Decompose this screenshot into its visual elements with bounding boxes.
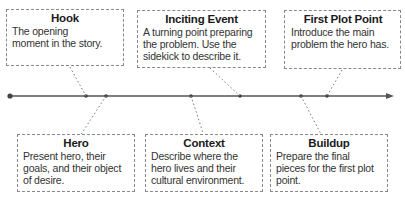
start-dot [7,93,12,98]
event-box-buildup: Buildup Prepare the final pieces for the… [270,134,388,192]
event-box-context: Context Describe where the hero lives an… [145,134,263,192]
event-box-hero: Hero Present hero, their goals, and thei… [17,134,135,192]
event-description: Present hero, their goals, and their obj… [23,150,128,186]
connector-first-plot-point [327,70,342,96]
connector-inciting-event [210,68,240,96]
event-title: Hero [23,137,129,150]
event-description: Introduce the main problem the hero has. [291,26,391,50]
event-title: Inciting Event [143,13,260,26]
arrow-head-icon [386,93,394,99]
event-box-inciting-event: Inciting Event A turning point preparing… [137,10,266,68]
event-description: The opening moment in the story. [12,25,107,49]
event-description: Prepare the final pieces for the first p… [276,150,380,186]
event-description: A turning point preparing the problem. U… [143,26,255,62]
event-title: Hook [12,12,118,25]
event-box-first-plot-point: First Plot Point Introduce the main prob… [284,10,401,69]
event-title: Context [151,137,257,150]
connector-hero [80,96,106,136]
event-title: Buildup [276,137,382,150]
event-title: First Plot Point [291,13,395,26]
event-description: Describe where the hero lives and their … [151,150,257,186]
connector-context [191,96,204,136]
event-box-hook: Hook The opening moment in the story. [6,9,124,66]
connector-hook [70,67,86,96]
connector-buildup [301,96,322,136]
